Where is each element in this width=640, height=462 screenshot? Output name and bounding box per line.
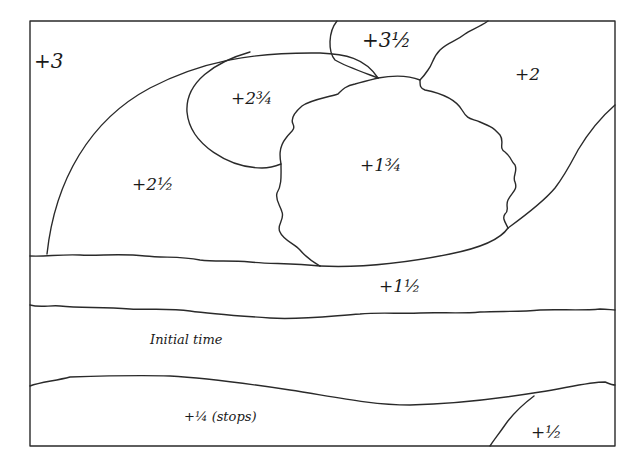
zone-label-plus-1-2: +½ bbox=[531, 424, 562, 441]
zone-label-plus-1-1-2: +1½ bbox=[379, 278, 421, 295]
zone-label-initial-time: Initial time bbox=[150, 333, 223, 346]
boundary-3-1-2-right bbox=[420, 21, 488, 80]
boundary-2-right bbox=[508, 105, 615, 228]
zone-label-plus-2: +2 bbox=[515, 66, 540, 83]
boundary-1-1-2-top bbox=[30, 255, 320, 266]
print-frame bbox=[30, 21, 615, 446]
boundary-3-arc bbox=[47, 53, 378, 254]
boundary-initial-top bbox=[30, 305, 615, 319]
zone-label-plus-3-1-2: +3½ bbox=[362, 30, 411, 50]
exposure-map: +3 +3½ +2 +2¾ +2½ +1¾ +1½ Initial time +… bbox=[0, 0, 640, 462]
boundary-2-3-4 bbox=[187, 52, 281, 168]
boundary-1-3-4 bbox=[378, 76, 516, 228]
zone-label-plus-1-4-stops: +¼ (stops) bbox=[184, 410, 256, 423]
zone-label-plus-1-3-4: +1¾ bbox=[360, 157, 402, 174]
zone-label-plus-2-1-2: +2½ bbox=[132, 176, 174, 193]
zone-label-plus-2-3-4: +2¾ bbox=[231, 90, 273, 107]
boundary-1-3-4-bottom bbox=[320, 228, 508, 266]
zone-boundaries bbox=[0, 0, 640, 462]
boundary-1-2 bbox=[490, 396, 534, 446]
zone-label-plus-3: +3 bbox=[34, 51, 63, 71]
